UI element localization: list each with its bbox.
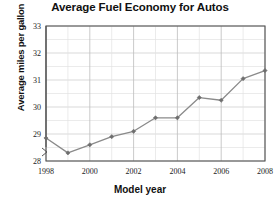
svg-text:2004: 2004 — [169, 167, 185, 176]
svg-text:29: 29 — [33, 130, 41, 139]
svg-text:2008: 2008 — [257, 167, 273, 176]
svg-text:30: 30 — [33, 103, 41, 112]
svg-text:2006: 2006 — [213, 167, 229, 176]
svg-text:28: 28 — [33, 157, 41, 166]
plot-area: 282930313233 199820002002200420062008 — [0, 0, 280, 201]
svg-text:31: 31 — [33, 76, 41, 85]
svg-text:2002: 2002 — [126, 167, 142, 176]
svg-text:1998: 1998 — [38, 167, 54, 176]
svg-text:2000: 2000 — [82, 167, 98, 176]
y-axis-ticks: 282930313233 — [33, 22, 41, 166]
svg-text:32: 32 — [33, 49, 41, 58]
svg-text:33: 33 — [33, 22, 41, 31]
chart-figure: Average Fuel Economy for Autos Average m… — [0, 0, 280, 201]
line-chart-svg: 282930313233 199820002002200420062008 — [0, 0, 280, 201]
x-axis-ticks: 199820002002200420062008 — [38, 167, 273, 176]
